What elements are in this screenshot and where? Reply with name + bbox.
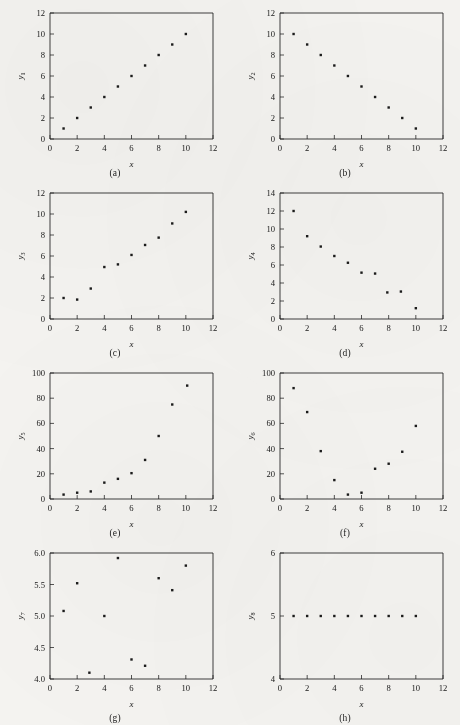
data-point — [333, 255, 335, 257]
data-point — [333, 615, 335, 617]
x-tick-label: 0 — [278, 143, 282, 153]
data-point — [62, 610, 64, 612]
x-tick-label: 10 — [182, 323, 191, 333]
data-point — [360, 492, 362, 494]
x-tick-label: 0 — [48, 683, 52, 693]
y-axis-label: y1 — [15, 72, 26, 80]
panel-caption: (h) — [230, 713, 460, 723]
x-tick-label: 4 — [102, 503, 107, 513]
x-tick-label: 2 — [305, 503, 309, 513]
plot-frame — [280, 373, 443, 499]
y-axis-label-group: y8 — [245, 612, 256, 620]
chart-panel-g: 0246810124.04.55.05.56.0y7x(g) — [0, 540, 230, 725]
x-tick-label: 12 — [209, 323, 218, 333]
y-axis-label-group: y3 — [15, 252, 26, 260]
x-tick-label: 4 — [102, 323, 107, 333]
scatter-plot-g: 0246810124.04.55.05.56.0y7x — [0, 540, 230, 720]
data-point — [401, 615, 403, 617]
data-point — [171, 222, 173, 224]
x-tick-label: 6 — [129, 323, 134, 333]
x-tick-label: 6 — [129, 683, 134, 693]
x-tick-label: 0 — [278, 503, 282, 513]
y-tick-label: 8 — [271, 242, 275, 252]
data-point — [157, 236, 159, 238]
x-tick-label: 12 — [439, 143, 448, 153]
y-axis-label: y4 — [245, 252, 256, 260]
data-point — [387, 615, 389, 617]
plot-frame — [280, 193, 443, 319]
data-point — [130, 254, 132, 256]
data-point — [171, 403, 173, 405]
data-point — [185, 564, 187, 566]
chart-panel-c: 024681012024681012y3x(c) — [0, 180, 230, 360]
scatter-plot-f: 024681012020406080100y6x — [230, 360, 460, 540]
data-point — [76, 117, 78, 119]
x-tick-label: 2 — [75, 143, 79, 153]
data-point — [415, 425, 417, 427]
panel-caption: (d) — [230, 348, 460, 358]
data-point — [360, 271, 362, 273]
x-tick-label: 6 — [129, 143, 134, 153]
x-tick-label: 12 — [439, 683, 448, 693]
y-axis-label: y7 — [15, 612, 26, 620]
y-tick-label: 40 — [36, 444, 45, 454]
y-tick-label: 10 — [36, 209, 45, 219]
data-point — [76, 492, 78, 494]
x-tick-label: 2 — [75, 323, 79, 333]
x-tick-label: 12 — [209, 503, 218, 513]
y-tick-label: 5 — [271, 611, 275, 621]
x-tick-label: 10 — [412, 323, 421, 333]
data-point — [292, 615, 294, 617]
panel-caption: (b) — [230, 168, 460, 178]
chart-panel-b: 024681012024681012y2x(b) — [230, 0, 460, 180]
panel-caption: (a) — [0, 168, 230, 178]
x-tick-label: 0 — [278, 323, 282, 333]
x-tick-label: 8 — [387, 503, 391, 513]
data-point — [88, 672, 90, 674]
x-tick-label: 8 — [387, 143, 391, 153]
data-point — [292, 33, 294, 35]
x-tick-label: 12 — [209, 683, 218, 693]
data-point — [171, 43, 173, 45]
data-point — [292, 210, 294, 212]
x-tick-label: 0 — [278, 683, 282, 693]
y-tick-label: 14 — [266, 188, 275, 198]
y-tick-label: 4 — [271, 278, 276, 288]
x-tick-label: 2 — [75, 503, 79, 513]
x-tick-label: 6 — [359, 323, 364, 333]
data-point — [347, 493, 349, 495]
x-tick-label: 8 — [157, 323, 161, 333]
data-point — [320, 54, 322, 56]
x-tick-label: 2 — [305, 683, 309, 693]
y-tick-label: 0 — [41, 494, 45, 504]
data-point — [415, 307, 417, 309]
y-tick-label: 6 — [41, 71, 46, 81]
y-tick-label: 5.0 — [34, 611, 45, 621]
panel-caption: (f) — [230, 528, 460, 538]
panel-caption: (g) — [0, 713, 230, 723]
x-tick-label: 0 — [48, 143, 52, 153]
y-axis-label-group: y4 — [245, 252, 256, 260]
data-point — [130, 658, 132, 660]
x-axis-label: x — [359, 699, 364, 709]
data-point — [76, 582, 78, 584]
y-axis-label-group: y7 — [15, 612, 26, 620]
data-point — [157, 577, 159, 579]
data-point — [306, 43, 308, 45]
data-point — [387, 463, 389, 465]
y-tick-label: 60 — [266, 418, 275, 428]
data-point — [157, 54, 159, 56]
data-point — [117, 263, 119, 265]
y-tick-label: 20 — [36, 469, 45, 479]
data-point — [185, 211, 187, 213]
x-axis-label: x — [129, 699, 134, 709]
data-point — [144, 459, 146, 461]
x-tick-label: 6 — [359, 503, 364, 513]
y-tick-label: 2 — [41, 113, 45, 123]
y-tick-label: 0 — [271, 494, 275, 504]
panel-caption: (e) — [0, 528, 230, 538]
y-tick-label: 6 — [271, 71, 276, 81]
data-point — [76, 298, 78, 300]
data-point — [117, 85, 119, 87]
chart-panel-d: 02468101202468101214y4x(d) — [230, 180, 460, 360]
